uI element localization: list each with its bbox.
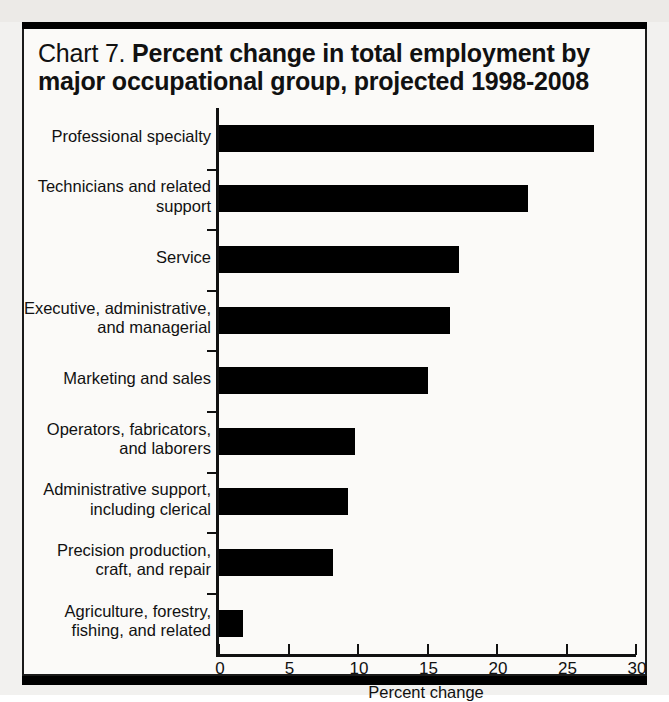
y-axis-tick <box>207 532 217 534</box>
x-axis-tick <box>566 644 568 655</box>
bar-row: Marketing and sales <box>24 350 645 410</box>
category-label: Operators, fabricators, and laborers <box>1 420 211 459</box>
category-label: Precision production, craft, and repair <box>1 541 211 580</box>
x-axis-tick-label: 20 <box>478 659 518 679</box>
category-label: Agriculture, forestry, fishing, and rela… <box>1 602 211 641</box>
bar <box>219 428 355 455</box>
plot-area: Professional specialtyTechnicians and re… <box>24 29 645 672</box>
bar-row: Operators, fabricators, and laborers <box>24 411 645 471</box>
x-axis-tick-label: 5 <box>270 659 310 679</box>
x-axis-tick-label: 0 <box>200 659 240 679</box>
y-axis-tick <box>207 290 217 292</box>
x-axis-tick <box>218 644 220 655</box>
y-axis-tick <box>207 350 217 352</box>
bar <box>219 488 348 515</box>
scan-artifact-top <box>0 0 669 22</box>
x-axis-tick-label: 30 <box>617 659 657 679</box>
x-axis-tick <box>496 644 498 655</box>
bar-row: Administrative support, including cleric… <box>24 472 645 532</box>
category-label: Service <box>1 248 211 267</box>
bar <box>219 246 459 273</box>
bar <box>219 549 333 576</box>
y-axis-tick <box>207 169 217 171</box>
x-axis-title: Percent change <box>216 683 636 702</box>
chart-frame: Chart 7. Percent change in total employm… <box>22 29 647 676</box>
bar <box>219 307 450 334</box>
bar <box>219 367 428 394</box>
category-label: Marketing and sales <box>1 369 211 388</box>
bar-row: Service <box>24 229 645 289</box>
bar-row: Precision production, craft, and repair <box>24 532 645 592</box>
y-axis-tick <box>207 229 217 231</box>
category-label: Technicians and related support <box>1 177 211 216</box>
x-axis-tick <box>635 644 637 655</box>
x-axis-tick-label: 25 <box>548 659 588 679</box>
x-axis-tick-label: 15 <box>409 659 449 679</box>
bar-row: Professional specialty <box>24 108 645 168</box>
figure-rule-top <box>22 22 647 29</box>
x-axis-tick <box>427 644 429 655</box>
category-label: Professional specialty <box>1 127 211 146</box>
y-axis-tick <box>207 472 217 474</box>
x-axis-tick <box>288 644 290 655</box>
bar <box>219 185 528 212</box>
y-axis-tick <box>207 411 217 413</box>
category-label: Administrative support, including cleric… <box>1 480 211 519</box>
bar <box>219 125 594 152</box>
x-axis-tick <box>357 644 359 655</box>
bar-row: Agriculture, forestry, fishing, and rela… <box>24 593 645 653</box>
y-axis-tick <box>207 593 217 595</box>
bar-row: Executive, administrative, and manageria… <box>24 290 645 350</box>
bar <box>219 610 243 637</box>
bar-row: Technicians and related support <box>24 169 645 229</box>
category-label: Executive, administrative, and manageria… <box>1 299 211 338</box>
x-axis-tick-label: 10 <box>339 659 379 679</box>
